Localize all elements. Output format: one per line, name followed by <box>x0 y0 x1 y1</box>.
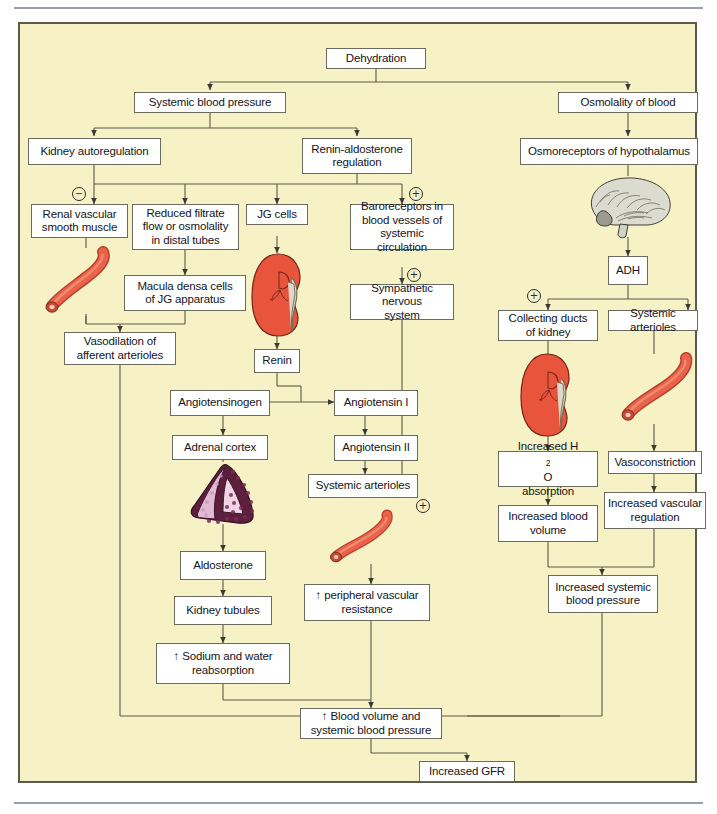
node-increased-vascular-regulation-line2: regulation <box>630 511 679 525</box>
node-peripheral-vascular-resistance: ↑ peripheral vascular resistance <box>304 584 430 621</box>
node-kidney-autoregulation: Kidney autoregulation <box>28 138 161 165</box>
node-vasodilation-line2: afferent arterioles <box>77 349 163 363</box>
node-increased-systemic-bp-line1: Increased systemic <box>555 581 651 595</box>
sign-plus-adh: + <box>527 289 541 303</box>
node-aldosterone-label: Aldosterone <box>193 559 253 573</box>
node-reduced-filtrate-flow: Reduced filtrate flow or osmolality in d… <box>132 204 239 250</box>
node-systemic-blood-pressure: Systemic blood pressure <box>134 92 286 113</box>
arteriole-right-icon <box>616 352 696 426</box>
node-adh-label: ADH <box>616 264 640 278</box>
node-renin-aldosterone-line2: regulation <box>332 156 381 170</box>
node-kidney-tubules: Kidney tubules <box>174 596 272 625</box>
sign-minus-label: − <box>75 189 83 199</box>
node-renin-aldosterone-regulation: Renin-aldosterone regulation <box>302 138 412 174</box>
node-increased-vascular-regulation-line1: Increased vascular <box>608 497 702 511</box>
node-increased-gfr: Increased GFR <box>419 761 515 782</box>
node-systemic-arterioles-right: Systemic arterioles <box>608 310 698 331</box>
node-osmoreceptors-label: Osmoreceptors of hypothalamus <box>528 145 690 159</box>
node-adrenal-cortex: Adrenal cortex <box>172 435 268 460</box>
node-blood-volume-systemic-bp-line2: systemic blood pressure <box>311 724 432 738</box>
sign-plus-sympathetic-label: + <box>410 270 418 280</box>
node-macula-densa-cells: Macula densa cells of JG apparatus <box>124 275 246 311</box>
node-renal-vascular-smooth-muscle: Renal vascular smooth muscle <box>31 204 128 238</box>
node-kidney-autoregulation-label: Kidney autoregulation <box>40 145 148 159</box>
arteriole-mid-icon <box>325 507 401 567</box>
sign-plus-sympathetic: + <box>407 268 421 282</box>
h2o-post: O <box>518 471 578 485</box>
node-angiotensin-i-label: Angiotensin I <box>344 396 409 410</box>
sign-plus-adh-label: + <box>530 291 538 301</box>
node-jg-cells-label: JG cells <box>257 208 297 222</box>
flowchart-panel: Dehydration Systemic blood pressure Osmo… <box>18 22 697 783</box>
node-kidney-tubules-label: Kidney tubules <box>186 604 259 618</box>
node-vasodilation-afferent-arterioles: Vasodilation of afferent arterioles <box>64 332 176 365</box>
node-baroreceptors-line3: systemic circulation <box>354 227 450 254</box>
node-collecting-ducts-line2: of kidney <box>526 326 571 340</box>
arteriole-left-icon <box>40 246 116 318</box>
node-sympathetic-line1: Sympathetic nervous <box>354 282 450 309</box>
node-increased-systemic-blood-pressure: Increased systemic blood pressure <box>548 575 658 613</box>
node-angiotensin-ii: Angiotensin II <box>334 435 418 461</box>
node-reduced-filtrate-line2: flow or osmolality <box>143 220 229 234</box>
node-collecting-ducts-of-kidney: Collecting ducts of kidney <box>498 310 598 341</box>
adrenal-gland-icon <box>183 462 267 528</box>
node-systemic-blood-pressure-label: Systemic blood pressure <box>149 96 271 110</box>
node-increased-systemic-bp-line2: blood pressure <box>566 594 640 608</box>
node-increased-blood-volume: Increased blood volume <box>498 505 598 542</box>
node-baroreceptors: Baroreceptors in blood vessels of system… <box>350 204 454 250</box>
node-increased-gfr-label: Increased GFR <box>429 765 505 779</box>
node-macula-densa-line1: Macula densa cells <box>137 280 232 294</box>
node-vasodilation-line1: Vasodilation of <box>84 335 156 349</box>
node-collecting-ducts-line1: Collecting ducts <box>509 312 588 326</box>
node-systemic-arterioles-mid-label: Systemic arterioles <box>316 479 410 493</box>
bottom-rule <box>14 802 703 804</box>
node-renal-vascular-line2: smooth muscle <box>42 221 117 235</box>
node-systemic-arterioles-right-label: Systemic arterioles <box>612 307 694 334</box>
sign-minus-kidney-autoregulation: − <box>72 187 86 201</box>
node-reduced-filtrate-line3: in distal tubes <box>151 234 219 248</box>
brain-sagittal-icon <box>572 174 684 240</box>
node-baroreceptors-line1: Baroreceptors in <box>361 200 443 214</box>
node-increased-h2o-line2: absorption <box>522 485 574 499</box>
node-increased-h2o-line1: Increased H2O <box>518 440 578 485</box>
node-vasoconstriction-label: Vasoconstriction <box>614 456 695 470</box>
node-peripheral-vascular-line1: ↑ peripheral vascular <box>316 589 419 603</box>
node-osmolality-of-blood-label: Osmolality of blood <box>581 96 676 110</box>
node-reduced-filtrate-line1: Reduced filtrate <box>146 207 224 221</box>
node-blood-volume-systemic-bp: ↑ Blood volume and systemic blood pressu… <box>300 708 442 739</box>
node-peripheral-vascular-line2: resistance <box>342 603 393 617</box>
node-increased-vascular-regulation: Increased vascular regulation <box>604 492 706 529</box>
node-vasoconstriction: Vasoconstriction <box>608 451 702 474</box>
node-renin-aldosterone-line1: Renin-aldosterone <box>311 143 402 157</box>
node-dehydration-label: Dehydration <box>346 52 406 66</box>
kidney-collecting-icon <box>517 352 579 438</box>
sign-plus-systemic-arterioles-label: + <box>419 501 427 511</box>
node-increased-blood-volume-line2: volume <box>530 524 566 538</box>
node-blood-volume-systemic-bp-line1: ↑ Blood volume and <box>322 710 420 724</box>
node-angiotensin-i: Angiotensin I <box>334 390 418 416</box>
node-dehydration: Dehydration <box>326 48 426 69</box>
node-sodium-water-line2: reabsorption <box>192 664 254 678</box>
node-renin-label: Renin <box>262 354 291 368</box>
figure-page: Dehydration Systemic blood pressure Osmo… <box>0 0 717 814</box>
node-sympathetic-line2: system <box>384 309 420 323</box>
node-osmoreceptors-of-hypothalamus: Osmoreceptors of hypothalamus <box>520 138 698 165</box>
top-rule <box>14 7 703 9</box>
node-angiotensinogen: Angiotensinogen <box>170 390 270 416</box>
h2o-sub: 2 <box>546 459 551 469</box>
h2o-pre: Increased H <box>518 440 578 454</box>
node-baroreceptors-line2: blood vessels of <box>362 214 442 228</box>
node-increased-h2o-absorption: Increased H2O absorption <box>498 451 598 487</box>
sign-plus-baroreceptors-label: + <box>412 189 420 199</box>
node-osmolality-of-blood: Osmolality of blood <box>558 92 698 113</box>
node-jg-cells: JG cells <box>246 204 308 225</box>
node-angiotensin-ii-label: Angiotensin II <box>342 441 410 455</box>
node-systemic-arterioles-mid: Systemic arterioles <box>308 474 418 498</box>
node-sympathetic-nervous-system: Sympathetic nervous system <box>350 284 454 320</box>
node-sodium-water-reabsorption: ↑ Sodium and water reabsorption <box>156 643 290 684</box>
node-adh: ADH <box>608 256 648 285</box>
node-sodium-water-line1: ↑ Sodium and water <box>174 650 273 664</box>
node-renal-vascular-line1: Renal vascular <box>43 208 117 222</box>
node-angiotensinogen-label: Angiotensinogen <box>178 396 261 410</box>
node-renin: Renin <box>254 349 300 373</box>
